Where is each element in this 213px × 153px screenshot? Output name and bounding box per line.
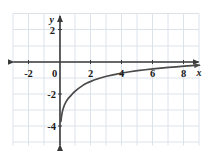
x-tick-label-8: 8 [181,68,186,79]
y-tick-label--4: -4 [47,121,56,132]
y-axis-label: y [49,14,55,25]
y-tick-label-2: 2 [50,25,55,36]
x-tick-label--2: -2 [24,68,33,79]
logarithmic-function-graph: -2 0 2 4 6 8 2 -2 -4 y x [0,0,213,153]
x-tick-label-4: 4 [119,68,125,79]
x-axis-label: x [196,67,202,78]
graph-figure: -2 0 2 4 6 8 2 -2 -4 y x [0,0,213,153]
x-tick-label-0: 0 [52,68,57,79]
x-tick-label-2: 2 [88,68,93,79]
x-tick-label-6: 6 [150,68,155,79]
y-tick-label--2: -2 [47,89,56,100]
